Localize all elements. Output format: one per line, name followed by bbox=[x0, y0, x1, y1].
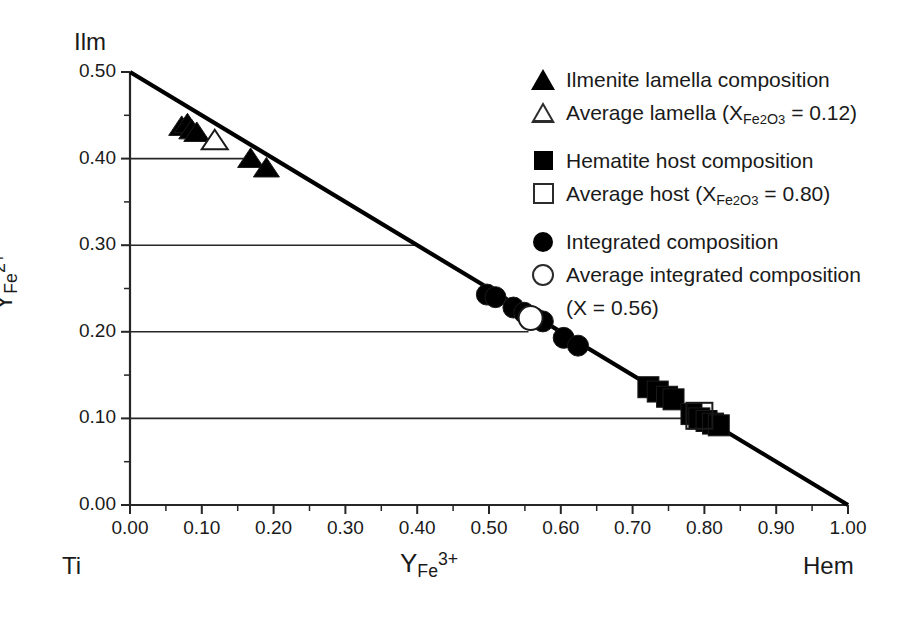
legend-item-ilmenite-lamella: Ilmenite lamella composition bbox=[520, 66, 920, 97]
filled-circle-icon bbox=[520, 228, 566, 255]
filled-triangle-icon bbox=[520, 66, 566, 93]
legend-item-average-integrated: Average integrated composition bbox=[520, 261, 920, 292]
x-tick-label: 0.60 bbox=[531, 517, 591, 539]
x-tick-label: 0.40 bbox=[387, 517, 447, 539]
x-tick-label: 0.00 bbox=[100, 517, 160, 539]
open-triangle-icon bbox=[520, 99, 566, 126]
x-tick-label: 0.90 bbox=[746, 517, 806, 539]
legend-item-integrated: Integrated composition bbox=[520, 228, 920, 259]
legend-label-average-host: Average host (XFe2O3 = 0.80) bbox=[566, 180, 830, 214]
x-tick-label: 0.20 bbox=[244, 517, 304, 539]
legend-item-average-host: Average host (XFe2O3 = 0.80) bbox=[520, 180, 920, 211]
x-tick-label: 0.70 bbox=[603, 517, 663, 539]
data-point-filled-circle bbox=[485, 287, 506, 308]
y-tick-label: 0.40 bbox=[60, 147, 116, 169]
legend-label-average-integrated: Average integrated composition bbox=[566, 261, 861, 288]
open-circle-icon bbox=[520, 261, 566, 288]
y-tick-label: 0.50 bbox=[60, 60, 116, 82]
legend-label-ilmenite-lamella: Ilmenite lamella composition bbox=[566, 66, 830, 93]
y-tick-label: 0.10 bbox=[60, 406, 116, 428]
y-tick-label: 0.30 bbox=[60, 233, 116, 255]
x-tick-label: 0.80 bbox=[674, 517, 734, 539]
legend-item-average-lamella: Average lamella (XFe2O3 = 0.12) bbox=[520, 99, 920, 130]
mineral-composition-scatter-plot: Ilm Ti Hem YFe2+ YFe3+ 0.000.100.200.300… bbox=[0, 0, 921, 619]
data-point-filled-circle bbox=[568, 335, 589, 356]
x-tick-label: 0.30 bbox=[315, 517, 375, 539]
legend-item-hematite-host: Hematite host composition bbox=[520, 147, 920, 178]
x-tick-label: 0.10 bbox=[172, 517, 232, 539]
legend-label-integrated: Integrated composition bbox=[566, 228, 778, 255]
legend-label-average-lamella: Average lamella (XFe2O3 = 0.12) bbox=[566, 99, 857, 133]
y-tick-label: 0.20 bbox=[60, 320, 116, 342]
legend-label-hematite-host: Hematite host composition bbox=[566, 147, 813, 174]
x-tick-label: 0.50 bbox=[459, 517, 519, 539]
filled-square-icon bbox=[520, 147, 566, 174]
open-square-icon bbox=[520, 180, 566, 207]
y-tick-label: 0.00 bbox=[60, 493, 116, 515]
legend: Ilmenite lamella composition Average lam… bbox=[520, 66, 920, 328]
x-tick-label: 1.00 bbox=[818, 517, 878, 539]
legend-label-average-integrated-continuation: (X = 0.56) bbox=[566, 294, 920, 328]
